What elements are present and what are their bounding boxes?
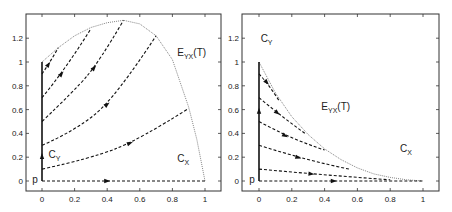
trajectory-curve (259, 98, 305, 134)
plot-panel-left: 00.20.40.60.8100.20.40.60.811.2EYX(T)CYC… (12, 14, 221, 204)
direction-arrow-icon (40, 153, 44, 159)
trajectory-curve (259, 122, 325, 151)
x-tick-label: 0.6 (134, 195, 146, 204)
direction-arrow-icon (331, 179, 337, 183)
annotation-label: EYX(T) (321, 101, 350, 114)
x-tick-label: 0.6 (352, 195, 364, 204)
annotation-label: CX (177, 153, 189, 166)
annotation-label: CY (49, 149, 61, 162)
annotation-label: p (32, 174, 38, 185)
y-tick-label: 0.4 (12, 129, 24, 138)
y-tick-label: 1 (235, 58, 240, 67)
y-tick-label: 0.4 (228, 129, 240, 138)
direction-arrow-icon (103, 101, 110, 108)
trajectory-curve (42, 48, 58, 74)
y-tick-label: 0 (235, 177, 240, 186)
annotation-label: EYX(T) (177, 47, 206, 60)
annotation-label: p (249, 174, 255, 185)
direction-arrow-icon (308, 171, 314, 176)
axes-frame (26, 14, 221, 191)
y-tick-label: 0.6 (228, 106, 240, 115)
y-tick-label: 0.6 (12, 106, 24, 115)
trajectory-curve (42, 20, 124, 121)
y-tick-label: 0.8 (12, 82, 24, 91)
y-tick-label: 0.2 (12, 153, 24, 162)
annotation-label: CY (261, 33, 273, 46)
trajectory-curve (42, 36, 156, 145)
x-tick-label: 0.4 (102, 195, 114, 204)
y-tick-label: 1.2 (12, 34, 24, 43)
x-tick-label: 1 (421, 195, 426, 204)
y-tick-label: 0 (19, 177, 24, 186)
x-tick-label: 1 (203, 195, 208, 204)
direction-arrow-icon (104, 179, 110, 183)
direction-arrow-icon (45, 61, 52, 68)
y-tick-label: 1.2 (228, 34, 240, 43)
x-tick-label: 0 (40, 195, 45, 204)
plot-panel-right: 00.20.40.60.8100.20.40.60.811.2EYX(T)CYC… (228, 14, 439, 204)
x-tick-label: 0.2 (286, 195, 298, 204)
trajectory-curve (42, 108, 189, 169)
y-tick-label: 1 (19, 58, 24, 67)
direction-arrow-icon (257, 108, 261, 114)
direction-arrow-icon (295, 155, 302, 161)
x-tick-label: 0.2 (69, 195, 81, 204)
x-tick-label: 0 (257, 195, 262, 204)
y-tick-label: 0.2 (228, 153, 240, 162)
x-tick-label: 0.8 (167, 195, 179, 204)
x-tick-label: 0.4 (319, 195, 331, 204)
y-tick-label: 0.8 (228, 82, 240, 91)
x-tick-label: 0.8 (385, 195, 397, 204)
trajectory-curve (259, 74, 279, 100)
trajectory-curve (259, 169, 390, 180)
envelope-curve (259, 62, 423, 181)
phase-portrait-figure: 00.20.40.60.8100.20.40.60.811.2EYX(T)CYC… (0, 0, 452, 212)
annotation-label: CX (400, 143, 412, 156)
trajectory-curve (259, 145, 349, 169)
